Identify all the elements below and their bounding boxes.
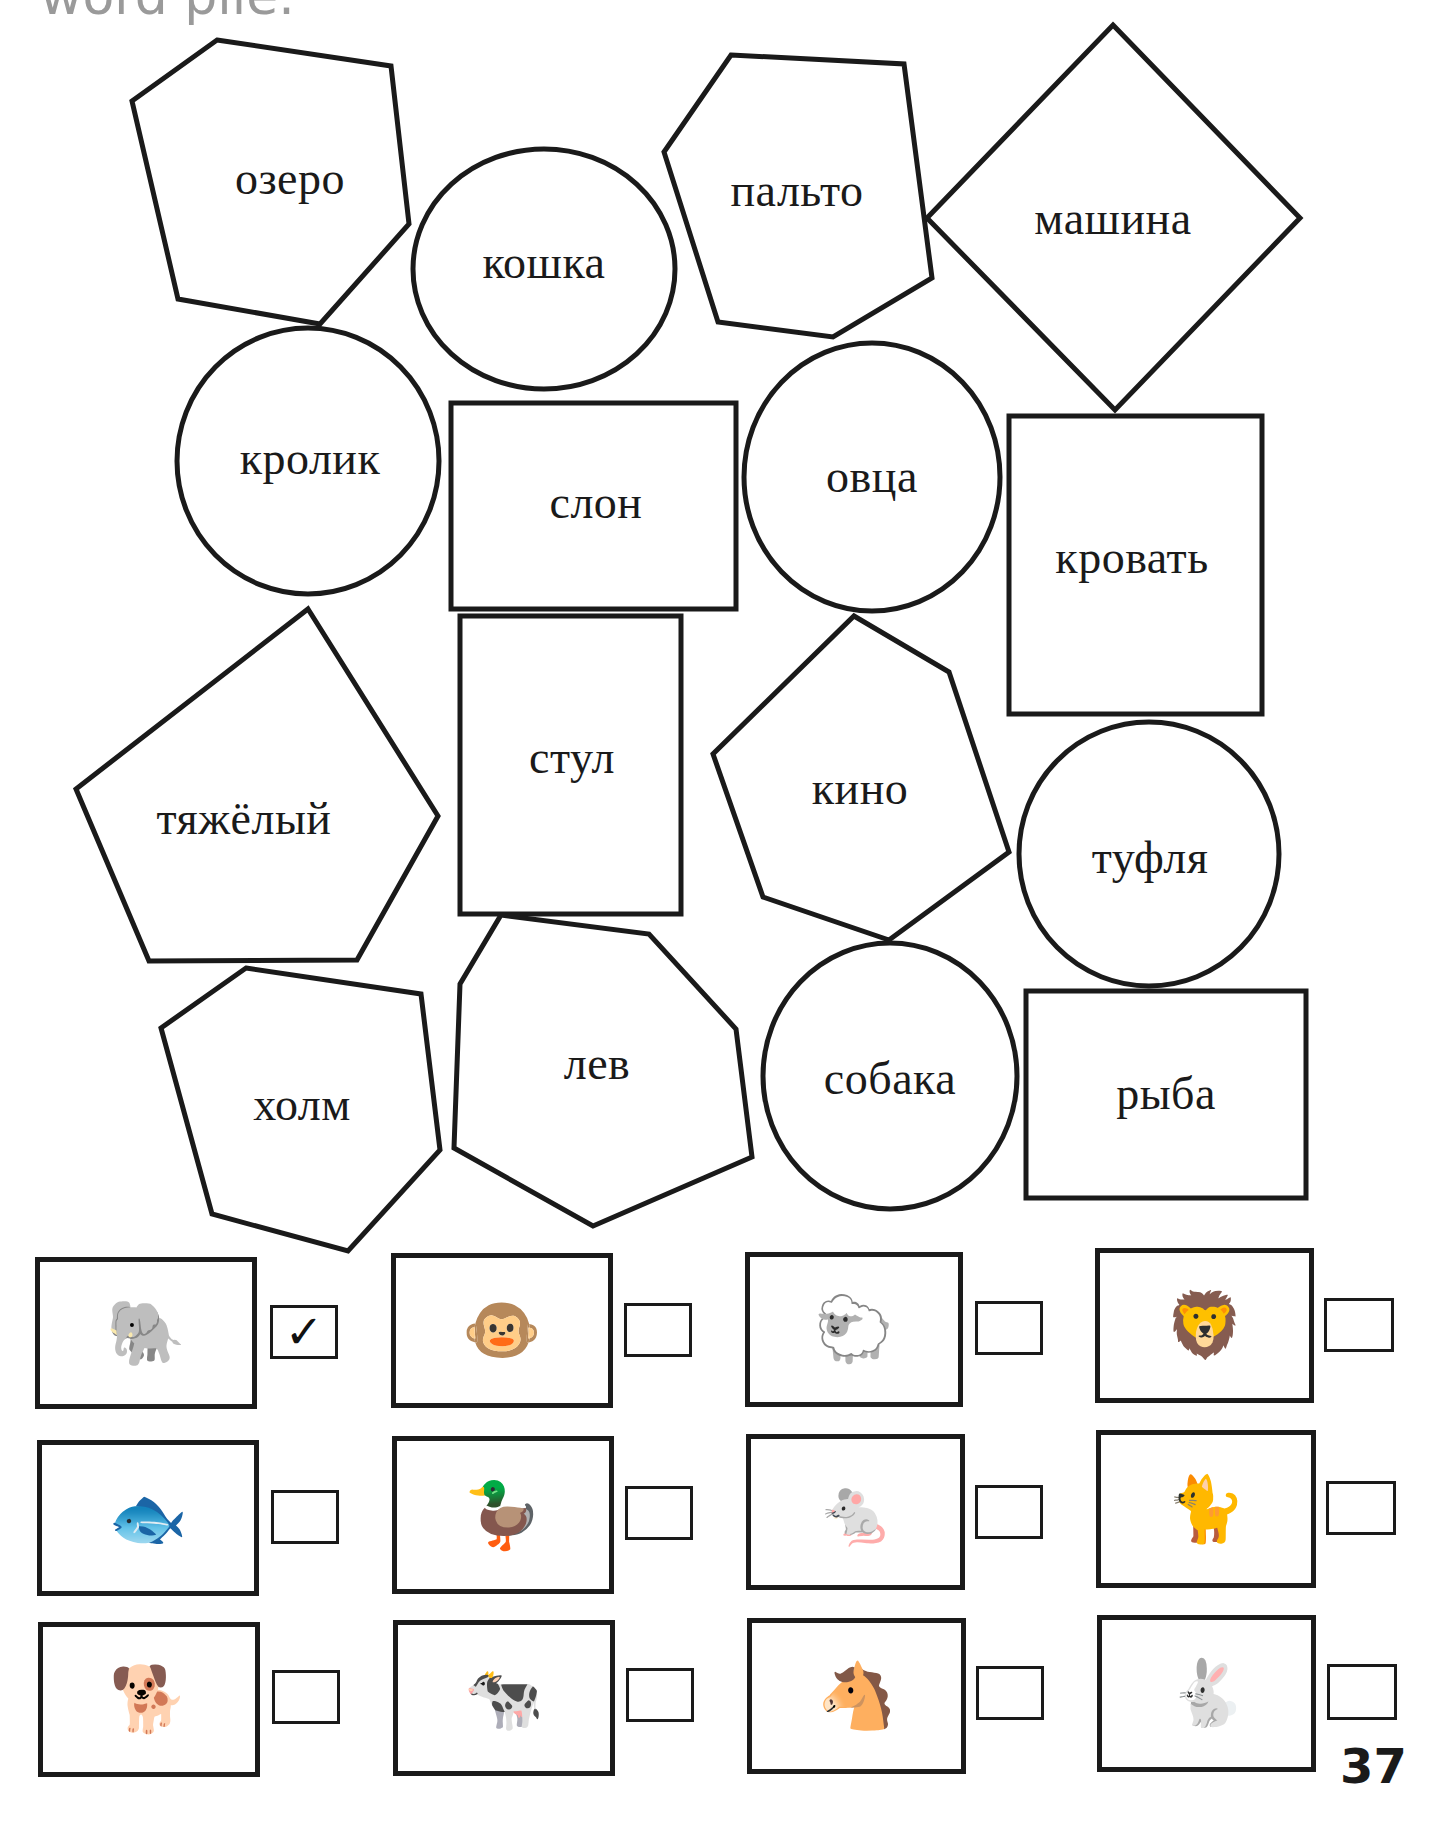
word-krovat: кровать bbox=[1055, 531, 1208, 584]
shape-tyazhely bbox=[76, 609, 438, 961]
page-number: 37 bbox=[1340, 1738, 1407, 1794]
picture-cat: 🐈 bbox=[1096, 1430, 1316, 1588]
picture-lion: 🦁 bbox=[1095, 1248, 1314, 1403]
word-shapes bbox=[0, 0, 1436, 1300]
checkbox-elephant[interactable]: ✓ bbox=[270, 1305, 338, 1359]
picture-duck: 🦆 bbox=[392, 1436, 614, 1594]
picture-monkey: 🐵 bbox=[391, 1253, 613, 1408]
checkbox-cat[interactable] bbox=[1326, 1481, 1396, 1535]
checkbox-monkey[interactable] bbox=[624, 1303, 692, 1357]
word-kholm: холм bbox=[253, 1078, 351, 1131]
word-koshka: кошка bbox=[482, 236, 605, 289]
word-sobaka: собака bbox=[824, 1052, 956, 1105]
picture-dog: 🐕 bbox=[38, 1622, 260, 1777]
checkbox-horse[interactable] bbox=[976, 1666, 1044, 1720]
word-ovtsa: овца bbox=[826, 450, 918, 503]
checkbox-duck[interactable] bbox=[625, 1486, 693, 1540]
picture-cow: 🐄 bbox=[393, 1620, 615, 1776]
word-ryba: рыба bbox=[1116, 1067, 1216, 1120]
checkbox-sheep[interactable] bbox=[975, 1301, 1043, 1355]
picture-sheep: 🐑 bbox=[745, 1252, 963, 1407]
word-ozero: озеро bbox=[235, 152, 345, 205]
word-kino: кино bbox=[812, 762, 909, 815]
picture-elephant: 🐘 bbox=[35, 1257, 257, 1409]
word-tyazhely: тяжёлый bbox=[157, 792, 332, 845]
word-lev: лев bbox=[564, 1037, 631, 1090]
checkbox-rabbit[interactable] bbox=[1327, 1664, 1397, 1720]
checkbox-mouse[interactable] bbox=[975, 1485, 1043, 1539]
picture-horse: 🐴 bbox=[747, 1618, 966, 1774]
checkbox-cow[interactable] bbox=[626, 1668, 694, 1722]
word-mashina: машина bbox=[1034, 192, 1191, 245]
checkbox-dog[interactable] bbox=[272, 1670, 340, 1724]
word-krolik: кролик bbox=[240, 432, 381, 485]
word-tuflya: туфля bbox=[1092, 831, 1209, 884]
word-stul: стул bbox=[529, 731, 615, 784]
picture-fish: 🐟 bbox=[37, 1440, 259, 1596]
checkbox-fish[interactable] bbox=[271, 1490, 339, 1544]
checkbox-lion[interactable] bbox=[1324, 1298, 1394, 1352]
picture-mouse: 🐁 bbox=[746, 1434, 965, 1590]
picture-rabbit: 🐇 bbox=[1097, 1615, 1316, 1772]
word-palto: пальто bbox=[730, 164, 863, 217]
word-slon: слон bbox=[550, 476, 643, 529]
